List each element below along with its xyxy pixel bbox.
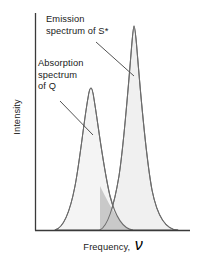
x-axis-title-text: Frequency,	[83, 242, 130, 252]
y-axis-title: Intensity	[6, 82, 24, 152]
y-axis-title-text: Intensity	[12, 99, 22, 135]
spectral-overlap-figure: Emission spectrum of S* Absorption spect…	[0, 0, 202, 255]
emission-leader-line	[96, 42, 134, 76]
chart-canvas	[0, 0, 202, 255]
x-axis-title: Frequency, ν	[35, 236, 191, 254]
x-axis-title-symbol: ν	[130, 236, 142, 253]
